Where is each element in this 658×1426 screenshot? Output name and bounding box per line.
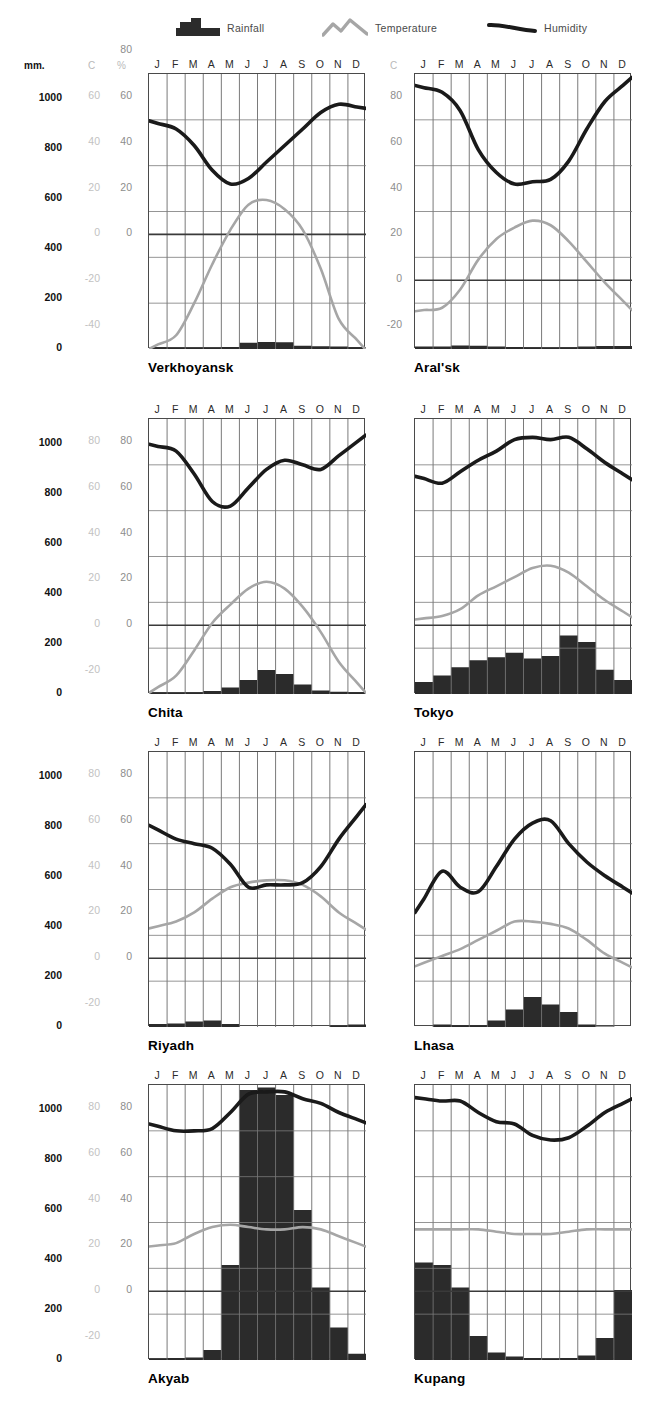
month-label: M (222, 736, 236, 748)
axis-tick-mm: 0 (16, 1019, 62, 1031)
legend-item-humidity: Humidity (487, 18, 587, 38)
month-label: D (349, 1069, 363, 1081)
legend-label-humidity: Humidity (544, 22, 587, 34)
month-label: J (525, 1069, 539, 1081)
axis-tick-celsius: 40 (76, 526, 100, 538)
month-label: A (543, 736, 557, 748)
month-label: F (434, 403, 448, 415)
axis-tick-celsius-right: -20 (378, 318, 402, 330)
month-label: S (561, 403, 575, 415)
axis-tick-percent: 0 (108, 226, 132, 238)
month-label: D (615, 1069, 629, 1081)
axis-tick-celsius: 60 (76, 480, 100, 492)
unit-header-mm: mm. (24, 60, 45, 71)
grid-lines (149, 1085, 366, 1360)
plot-area (148, 1084, 365, 1359)
month-label: N (331, 403, 345, 415)
axis-tick-percent: 60 (108, 480, 132, 492)
month-label: M (488, 403, 502, 415)
chart-title: Riyadh (148, 1038, 194, 1053)
month-label: M (452, 403, 466, 415)
month-label: S (295, 58, 309, 70)
month-label: A (470, 403, 484, 415)
axis-tick-mm: 800 (16, 141, 62, 153)
month-label: J (259, 1069, 273, 1081)
month-label: F (434, 736, 448, 748)
axis-tick-celsius: -20 (76, 663, 100, 675)
month-label: F (434, 1069, 448, 1081)
month-label: J (416, 58, 430, 70)
month-label: A (277, 403, 291, 415)
month-label: N (597, 736, 611, 748)
climate-chart-lhasa: JFMAMJJASOND (414, 751, 631, 1026)
month-label: S (561, 58, 575, 70)
month-axis: JFMAMJJASOND (414, 1069, 631, 1083)
axis-tick-celsius: 40 (76, 859, 100, 871)
grid-lines (415, 74, 632, 349)
rainfall-bars-icon (176, 18, 220, 38)
month-label: J (506, 403, 520, 415)
axis-tick-percent: 0 (108, 950, 132, 962)
climate-chart-kupang: JFMAMJJASOND (414, 1084, 631, 1359)
legend-item-temperature: Temperature (322, 18, 437, 38)
axis-tick-celsius: 0 (76, 950, 100, 962)
month-label: J (240, 736, 254, 748)
month-label: A (543, 1069, 557, 1081)
temperature-peak-line-icon (322, 18, 368, 38)
axis-tick-celsius: 60 (76, 813, 100, 825)
month-label: J (416, 1069, 430, 1081)
month-axis: JFMAMJJASOND (148, 403, 365, 417)
month-label: F (168, 1069, 182, 1081)
axis-tick-mm: 600 (16, 1202, 62, 1214)
axis-tick-celsius: -20 (76, 272, 100, 284)
month-label: N (597, 58, 611, 70)
month-axis: JFMAMJJASOND (414, 403, 631, 417)
month-label: N (331, 58, 345, 70)
plot-area (414, 73, 631, 348)
month-label: N (597, 1069, 611, 1081)
chart-title: Lhasa (414, 1038, 454, 1053)
chart-title: Kupang (414, 1371, 465, 1386)
month-label: M (222, 58, 236, 70)
month-axis: JFMAMJJASOND (148, 1069, 365, 1083)
month-label: A (204, 1069, 218, 1081)
month-label: J (506, 1069, 520, 1081)
month-label: M (488, 1069, 502, 1081)
month-label: F (434, 58, 448, 70)
month-label: A (277, 736, 291, 748)
climate-chart-chita: JFMAMJJASOND (148, 418, 365, 693)
month-label: D (615, 58, 629, 70)
month-label: J (506, 736, 520, 748)
month-label: M (186, 58, 200, 70)
axis-tick-celsius-right: 40 (378, 181, 402, 193)
month-label: F (168, 403, 182, 415)
month-label: A (204, 58, 218, 70)
axis-tick-celsius: -20 (76, 1329, 100, 1341)
chart-title: Chita (148, 705, 183, 720)
unit-header-percent: % (117, 60, 126, 71)
axis-tick-mm: 800 (16, 1152, 62, 1164)
month-label: M (452, 1069, 466, 1081)
axis-tick-mm: 1000 (16, 769, 62, 781)
legend: Rainfall Temperature Humidity (0, 14, 658, 44)
month-label: A (204, 403, 218, 415)
month-label: F (168, 58, 182, 70)
axis-tick-celsius: 80 (76, 1100, 100, 1112)
month-label: M (222, 1069, 236, 1081)
axis-tick-celsius: 0 (76, 226, 100, 238)
month-label: A (470, 736, 484, 748)
axis-tick-celsius: 60 (76, 89, 100, 101)
plot-area (148, 73, 365, 348)
axis-tick-celsius: -20 (76, 996, 100, 1008)
axis-tick-mm: 800 (16, 819, 62, 831)
month-label: J (525, 58, 539, 70)
month-label: M (452, 58, 466, 70)
axis-tick-mm: 400 (16, 586, 62, 598)
month-label: O (579, 403, 593, 415)
month-label: A (277, 1069, 291, 1081)
axis-tick-mm: 400 (16, 241, 62, 253)
axis-tick-celsius: 60 (76, 1146, 100, 1158)
month-label: O (313, 1069, 327, 1081)
unit-header-celsius-right: C (390, 60, 397, 71)
month-label: O (579, 1069, 593, 1081)
